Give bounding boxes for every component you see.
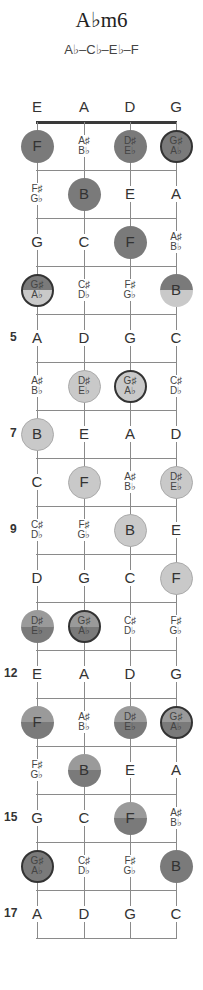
chord-tone-marker: G♯A♭	[156, 705, 196, 739]
note-dot: B	[68, 754, 101, 787]
root-dot: G♯A♭	[21, 274, 54, 307]
enharmonic-label: G♯A♭	[78, 615, 91, 637]
fret-position: E	[156, 513, 196, 547]
fret-position: A	[156, 177, 196, 211]
fret-position: A♯B♭	[110, 465, 150, 499]
note-label: C	[78, 234, 91, 250]
note-label: E	[170, 522, 182, 538]
note-dot: F	[68, 466, 101, 499]
enharmonic-label: A♯B♭	[124, 471, 136, 493]
enharmonic-label: A♯B♭	[170, 231, 182, 253]
note-label: G	[30, 810, 44, 826]
note-dot: D♯E♭	[114, 706, 147, 739]
note-dot: D♯E♭	[68, 370, 101, 403]
enharmonic-label: D♯E♭	[124, 135, 136, 157]
chord-tone-marker: F	[156, 561, 196, 595]
fret-position: C	[110, 561, 150, 595]
enharmonic-label: G♯A♭	[31, 855, 44, 877]
fret-position: C	[156, 321, 196, 355]
chord-tone-marker: F	[110, 801, 150, 835]
chord-tone-marker: F	[64, 465, 104, 499]
enharmonic-label: F♯G♭	[124, 279, 137, 301]
fret-line	[36, 362, 177, 363]
note-label: A	[31, 330, 43, 346]
fret-position: E	[110, 753, 150, 787]
fret-position: E	[64, 417, 104, 451]
note-label: B	[31, 426, 43, 442]
note-label: E	[78, 426, 90, 442]
fret-position: A	[156, 753, 196, 787]
note-label: F	[124, 234, 135, 250]
note-dot: B	[21, 418, 54, 451]
note-dot: D♯E♭	[21, 610, 54, 643]
note-label: G	[77, 570, 91, 586]
fret-line	[36, 458, 177, 459]
fret-position: F♯G♭	[156, 609, 196, 643]
note-label: F	[31, 714, 42, 730]
note-label: B	[124, 522, 136, 538]
chord-tone-marker: G♯A♭	[156, 129, 196, 163]
chord-tone-marker: G♯A♭	[64, 609, 104, 643]
fret-position: A♯B♭	[156, 225, 196, 259]
fret-position: C	[156, 897, 196, 931]
fret-position: F♯G♭	[17, 753, 57, 787]
fret-position: A	[64, 657, 104, 691]
note-label: E	[124, 186, 136, 202]
fret-line	[36, 314, 177, 315]
note-dot: F	[21, 706, 54, 739]
note-label: C	[170, 330, 183, 346]
note-label: F	[78, 474, 89, 490]
fret-position: C♯D♭	[110, 609, 150, 643]
enharmonic-label: F♯G♭	[78, 519, 91, 541]
open-string-label: A	[64, 90, 104, 124]
note-label: E	[31, 666, 43, 682]
fret-position: D	[64, 897, 104, 931]
fret-position: C	[17, 465, 57, 499]
enharmonic-label: C♯D♭	[31, 519, 43, 541]
note-label: D	[170, 426, 183, 442]
fret-position: C♯D♭	[64, 849, 104, 883]
enharmonic-label: A♯B♭	[78, 711, 90, 733]
note-label: A	[78, 99, 90, 115]
fret-position: A♯B♭	[156, 801, 196, 835]
chord-tone-marker: D♯E♭	[110, 129, 150, 163]
note-dot: D♯E♭	[160, 466, 193, 499]
fret-position: D	[17, 561, 57, 595]
fret-line	[36, 266, 177, 267]
enharmonic-label: C♯D♭	[124, 615, 136, 637]
note-label: G	[30, 234, 44, 250]
chord-tone-marker: G♯A♭	[17, 849, 57, 883]
chord-tone-marker: D♯E♭	[17, 609, 57, 643]
fret-position: A♯B♭	[17, 369, 57, 403]
open-string-label: G	[156, 90, 196, 124]
note-label: A	[170, 762, 182, 778]
note-label: B	[78, 762, 90, 778]
chord-tone-marker: B	[17, 417, 57, 451]
note-dot: B	[160, 850, 193, 883]
fret-position: D	[64, 321, 104, 355]
enharmonic-label: F♯G♭	[31, 183, 44, 205]
note-label: G	[123, 906, 137, 922]
fret-position: F♯G♭	[110, 273, 150, 307]
note-label: E	[124, 762, 136, 778]
chord-tone-marker: B	[156, 849, 196, 883]
note-label: A	[78, 666, 90, 682]
enharmonic-label: D♯E♭	[124, 711, 136, 733]
fret-position: D	[156, 417, 196, 451]
note-label: D	[78, 906, 91, 922]
enharmonic-label: D♯E♭	[170, 471, 182, 493]
enharmonic-label: C♯D♭	[170, 375, 182, 397]
fret-position: F♯G♭	[64, 513, 104, 547]
open-string-label: E	[17, 90, 57, 124]
enharmonic-label: F♯G♭	[124, 855, 137, 877]
note-dot: B	[160, 274, 193, 307]
fret-position: A♯B♭	[64, 705, 104, 739]
chord-tone-marker: G♯A♭	[17, 273, 57, 307]
fret-line	[36, 602, 177, 603]
fret-position: G	[17, 225, 57, 259]
chord-tone-marker: D♯E♭	[64, 369, 104, 403]
fret-line	[36, 218, 177, 219]
fret-position: E	[17, 657, 57, 691]
fret-line	[36, 794, 177, 795]
fret-position: A	[17, 321, 57, 355]
